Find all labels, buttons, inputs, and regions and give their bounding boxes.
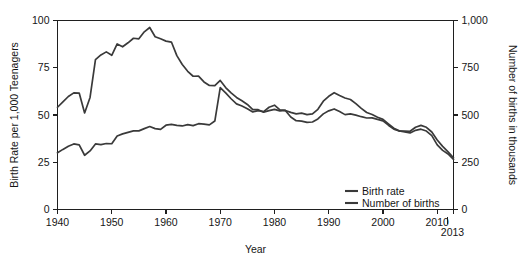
y-axis-title: Birth Rate per 1,000 Teenagers xyxy=(8,42,20,188)
chart-canvas: 025507510002505007501,000194019501960197… xyxy=(0,0,526,268)
y-axis-tick-label: 100 xyxy=(32,14,50,26)
data-series xyxy=(58,27,454,159)
axis-labels: 025507510002505007501,000194019501960197… xyxy=(8,14,519,254)
x-axis-tick-label: 1960 xyxy=(154,216,178,228)
y2-axis-tick-label: 250 xyxy=(462,156,480,168)
y-axis-tick-label: 25 xyxy=(38,156,50,168)
x-axis-tick-label: 1950 xyxy=(100,216,124,228)
x-axis-tick-label: 2000 xyxy=(371,216,395,228)
x-axis-end-label: 2013 xyxy=(441,226,465,238)
y2-axis-tick-label: 750 xyxy=(462,61,480,73)
legend-label: Birth rate xyxy=(362,185,405,197)
plot-frame xyxy=(58,21,454,210)
y-axis-tick-label: 75 xyxy=(38,61,50,73)
x-axis-tick-label: 1990 xyxy=(317,216,341,228)
x-axis-tick-label: 1980 xyxy=(263,216,287,228)
x-axis-title: Year xyxy=(245,243,267,255)
y2-axis-tick-label: 0 xyxy=(462,203,468,215)
y2-axis-tick-label: 500 xyxy=(462,109,480,121)
y2-axis-tick-label: 1,000 xyxy=(462,14,488,26)
chart-legend: Birth rateNumber of births xyxy=(345,185,440,209)
y-axis-tick-label: 0 xyxy=(44,203,50,215)
x-axis-tick-label: 1940 xyxy=(46,216,70,228)
series-line-number-of-births xyxy=(58,88,454,158)
y2-axis-title: Number of births in thousands xyxy=(507,45,519,185)
birth-rate-chart: 025507510002505007501,000194019501960197… xyxy=(0,0,526,268)
series-line-birth-rate xyxy=(58,27,454,159)
y-axis-tick-label: 50 xyxy=(38,109,50,121)
legend-label: Number of births xyxy=(362,197,440,209)
x-axis-tick-label: 1970 xyxy=(209,216,233,228)
